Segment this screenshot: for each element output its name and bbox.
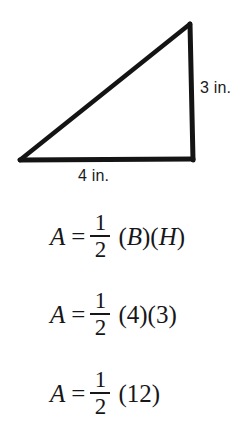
- equation-variable: A: [50, 302, 65, 327]
- tail-part: (: [118, 380, 126, 407]
- triangle-base-edge: [20, 159, 193, 160]
- tail-part: 3: [156, 301, 169, 328]
- equals-sign: =: [71, 381, 85, 406]
- tail-part: ): [168, 301, 176, 328]
- tail-part: (: [118, 301, 126, 328]
- fraction-numerator: 1: [92, 211, 110, 235]
- tail-part: )(: [139, 301, 156, 328]
- tail-part: ): [177, 223, 185, 250]
- equation-list: A = 1 2 (B)(H) A = 1 2 (4)(3): [0, 200, 241, 442]
- tail-part: 12: [127, 380, 152, 407]
- right-triangle-shape: [0, 0, 241, 200]
- base-dimension-label: 4 in.: [78, 167, 109, 185]
- tail-part: 4: [127, 301, 140, 328]
- triangle-hypotenuse-edge: [20, 24, 190, 160]
- fraction-numerator: 1: [92, 289, 110, 313]
- equation-tail: (B)(H): [118, 224, 185, 249]
- triangle-height-edge: [190, 24, 193, 160]
- fraction-one-half: 1 2: [90, 289, 110, 339]
- tail-part: H: [159, 223, 177, 250]
- worksheet-page: 3 in. 4 in. A = 1 2 (B)(H) A = 1 2: [0, 0, 241, 442]
- fraction-numerator: 1: [92, 368, 110, 392]
- tail-part: B: [127, 223, 142, 250]
- tail-part: ): [152, 380, 160, 407]
- fraction-denominator: 2: [92, 394, 110, 418]
- tail-part: )(: [142, 223, 159, 250]
- equation-tail: (12): [118, 381, 160, 406]
- fraction-one-half: 1 2: [90, 211, 110, 261]
- equation-variable: A: [50, 381, 65, 406]
- height-dimension-label: 3 in.: [200, 79, 231, 97]
- triangle-figure: 3 in. 4 in.: [0, 0, 241, 200]
- fraction-one-half: 1 2: [90, 368, 110, 418]
- equals-sign: =: [71, 302, 85, 327]
- tail-part: (: [118, 223, 126, 250]
- equation-variable: A: [50, 224, 65, 249]
- equals-sign: =: [71, 224, 85, 249]
- fraction-denominator: 2: [92, 237, 110, 261]
- equation-tail: (4)(3): [118, 302, 176, 327]
- fraction-denominator: 2: [92, 315, 110, 339]
